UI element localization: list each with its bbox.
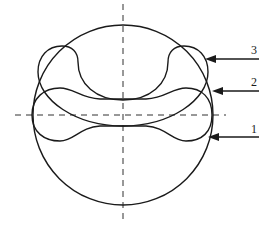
label-2: 2 [251,75,257,89]
label-3: 3 [251,43,257,57]
label-1: 1 [251,122,257,136]
diagram-canvas: 3 2 1 [0,0,277,228]
curve-1-dogbone [32,88,212,141]
